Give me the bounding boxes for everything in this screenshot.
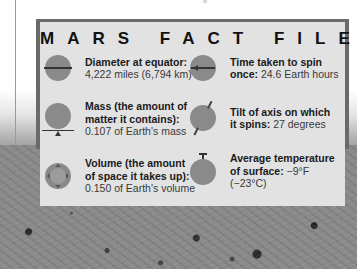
fact-label: Mass (the amount of [85,100,187,112]
axis-tilt-icon [190,100,216,136]
fact-label: Volume (the amount [85,157,185,169]
antenna-pole [15,0,16,148]
fact-label: Diameter at equator: [85,56,187,68]
spin-time-icon [190,53,216,83]
sky-mark [203,0,207,3]
fact-value: 4,222 miles (6,794 km) [85,68,192,80]
fact-diameter: Diameter at equator: 4,222 miles (6,794 … [45,53,192,83]
fact-temperature: Average temperature of surface: −9°F (−2… [190,152,345,190]
fact-label: matter it contains): [85,113,180,125]
temperature-icon [190,153,216,189]
fact-label: Average temperature [230,152,335,164]
fact-value: 0.150 of Earth's volume [85,182,195,194]
volume-icon [45,161,71,191]
fact-spin-time: Time taken to spin once: 24.6 Earth hour… [190,53,339,83]
fact-label: once: [230,68,258,80]
fact-value: 24.6 Earth hours [261,68,339,80]
fact-label: of space it takes up): [85,170,189,182]
mass-icon [45,101,71,137]
fact-axis-tilt: Tilt of axis on which it spins: 27 degre… [190,100,330,136]
fact-label: it spins: [230,118,270,130]
fact-value: 27 degrees [273,118,326,130]
fact-mass: Mass (the amount of matter it contains):… [45,100,187,138]
fact-value: 0.107 of Earth's mass [85,125,186,137]
fact-label: of surface: [230,165,284,177]
panel-title: MARS FACT FILE [40,29,345,49]
fact-file-panel: MARS FACT FILE Diameter at equator: 4,22… [40,22,345,206]
fact-volume: Volume (the amount of space it takes up)… [45,157,195,195]
fact-label: Tilt of axis on which [230,106,330,118]
diameter-icon [45,53,71,83]
fact-label: Time taken to spin [230,56,322,68]
